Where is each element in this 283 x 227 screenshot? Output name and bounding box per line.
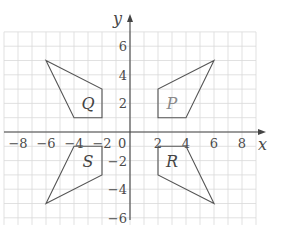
shape-r-label: R [165, 152, 178, 171]
y-axis-label: y [112, 9, 123, 28]
y-tick-label: 4 [119, 68, 127, 83]
x-tick-label: −8 [8, 136, 27, 151]
y-tick-label: 2 [119, 96, 127, 111]
x-tick-label: −6 [36, 136, 55, 151]
x-tick-label: 8 [238, 136, 246, 151]
coordinate-diagram: x y 0 −8−6−4−22468642−2−4−6 PQRS [0, 0, 283, 227]
x-tick-label: 6 [210, 136, 218, 151]
x-tick-label: 4 [182, 136, 190, 151]
x-tick-label: −4 [64, 136, 83, 151]
shape-s-label: S [83, 152, 94, 171]
y-tick-label: −4 [108, 182, 127, 197]
shape-p-label: P [166, 94, 178, 113]
origin-label: 0 [118, 136, 126, 151]
x-axis-label: x [258, 135, 267, 154]
axes: x y 0 [4, 9, 267, 220]
y-tick-label: 6 [119, 39, 127, 54]
y-tick-label: −6 [108, 211, 127, 226]
y-axis-arrow-icon [127, 14, 133, 22]
shape-q-label: Q [81, 94, 94, 113]
y-tick-label: −2 [108, 154, 127, 169]
